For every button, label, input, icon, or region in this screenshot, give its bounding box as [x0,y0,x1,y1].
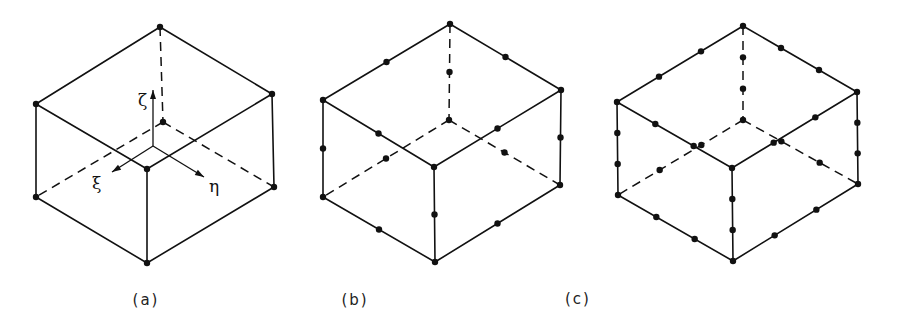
mid-edge-node [729,227,735,233]
mid-edge-node [375,130,381,136]
element-edge [733,184,858,261]
corner-node [431,164,437,170]
element-edge [617,102,732,168]
element-edge [857,92,858,184]
mid-edge-node [778,138,784,144]
corner-node [729,165,735,171]
hidden-element-edge [618,120,743,195]
mid-edge-node [557,134,563,140]
mid-edge-node [816,67,822,73]
corner-node [446,117,452,123]
corner-node [144,260,150,266]
element-edge [36,197,147,263]
element-edge [617,26,743,102]
zeta-arrowhead-icon [150,90,156,99]
panel-c: (c) [565,23,861,308]
corner-node [320,97,326,103]
mid-edge-node [729,196,735,202]
mid-edge-node [431,211,437,217]
element-edge [147,94,272,169]
corner-node [320,194,326,200]
mid-edge-node [494,220,500,226]
panel-caption-c: (c) [565,290,591,308]
xi-arrowhead-icon [112,165,121,172]
eta-arrowhead-icon [195,170,204,177]
corner-node [144,166,150,172]
mid-edge-node [690,143,696,149]
mid-edge-node [854,150,860,156]
eta-axis-label: η [209,176,219,196]
corner-node [557,182,563,188]
corner-node [160,119,166,125]
corner-node [558,87,564,93]
element-edge [617,102,618,195]
panel-caption-a: (a) [133,291,160,309]
mid-edge-node [502,54,508,60]
mid-edge-node [653,214,659,220]
panel-caption-b: (b) [341,291,368,309]
corner-node [615,192,621,198]
hidden-element-edge [743,120,858,184]
mid-edge-node [813,206,819,212]
mid-edge-node [652,121,658,127]
mid-edge-node [691,236,697,242]
corner-node [432,259,438,265]
corner-node [33,194,39,200]
element-edge [743,26,857,92]
corner-node [854,89,860,95]
xi-axis-label: ξ [92,173,101,193]
element-edge [618,195,733,261]
mid-edge-node [656,167,662,173]
mid-edge-node [376,226,382,232]
corner-node [740,117,746,123]
corner-node [730,258,736,264]
hexahedral-elements-figure: ζξη(a) (b) (c) [0,0,898,328]
zeta-axis-label: ζ [138,90,147,110]
corner-node [614,99,620,105]
corner-node [855,181,861,187]
element-edge [732,92,857,168]
element-edge [36,104,147,169]
element-edge [732,168,733,261]
mid-edge-node [812,114,818,120]
mid-edge-node [698,48,704,54]
mid-edge-node [383,59,389,65]
corner-node [740,23,746,29]
corner-node [269,91,275,97]
mid-edge-node [614,130,620,136]
mid-edge-node [656,73,662,79]
mid-edge-node [320,145,326,151]
panel-b: (b) [320,21,564,309]
corner-node [157,24,163,30]
corner-node [271,184,277,190]
mid-edge-node [698,142,704,148]
mid-edge-node [778,45,784,51]
mid-edge-node [771,232,777,238]
element-edge [160,27,272,94]
mid-edge-node [816,159,822,165]
mid-edge-node [501,149,507,155]
mid-edge-node [383,155,389,161]
mid-edge-node [740,54,746,60]
element-edge [147,187,274,263]
mid-edge-node [614,161,620,167]
hidden-element-edge [160,27,163,122]
corner-node [447,21,453,27]
panel-a: ζξη(a) [33,24,277,309]
element-edge [272,94,274,187]
mid-edge-node [854,119,860,125]
corner-node [33,101,39,107]
mid-edge-node [770,139,776,145]
mid-edge-node [494,125,500,131]
mid-edge-node [446,69,452,75]
mid-edge-node [740,85,746,91]
